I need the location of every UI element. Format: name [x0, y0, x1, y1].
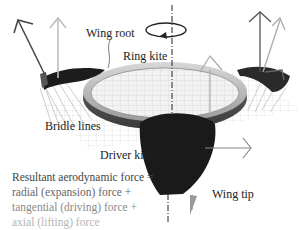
rotation-arrow-icon [146, 23, 186, 39]
force-vectors-left [14, 18, 66, 78]
legend-resultant: Resultant aerodynamic force = [12, 170, 154, 185]
legend-tangential: tangential (driving) force + [12, 200, 154, 215]
legend-axial: axial (lifting) force [12, 215, 154, 230]
wing-root-label: Wing root [86, 27, 135, 39]
wing-root-leader [108, 40, 110, 68]
ring-kite-label: Ring kite [123, 50, 167, 62]
rotary-kite-diagram: Wing root Ring kite Bridle lines Driver … [0, 0, 301, 230]
driver-kite-label: Driver kite [100, 149, 152, 161]
bridle-lines-label: Bridle lines [45, 120, 101, 132]
legend-radial: radial (expansion) force + [12, 185, 154, 200]
wing-tip-label: Wing tip [212, 188, 254, 200]
force-legend: Resultant aerodynamic force = radial (ex… [12, 170, 154, 230]
